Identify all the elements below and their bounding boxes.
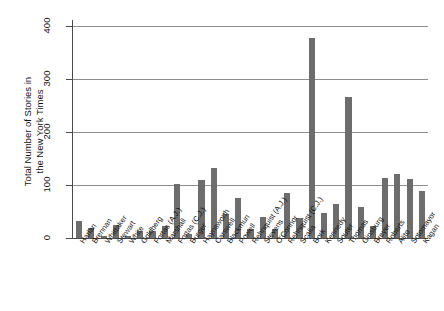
y-tick-0	[66, 238, 72, 239]
y-tick-label-300: 300	[41, 64, 52, 94]
bar-chart: Total Number of Stories in the New York …	[0, 0, 444, 311]
x-axis-labels: HarlanBrennanWhittakerStewartWhiteGoldbe…	[73, 240, 444, 311]
y-tick-400	[66, 26, 72, 27]
y-tick-100	[66, 185, 72, 186]
y-tick-200	[66, 132, 72, 133]
bar-series	[73, 20, 428, 238]
y-axis-title-line-1: Total Number of Stories in	[22, 37, 34, 227]
y-tick-label-400: 400	[41, 11, 52, 41]
bar-thomas	[345, 97, 351, 238]
y-tick-300	[66, 79, 72, 80]
y-tick-label-0: 0	[41, 223, 52, 253]
y-tick-label-100: 100	[41, 170, 52, 200]
y-tick-label-200: 200	[41, 117, 52, 147]
